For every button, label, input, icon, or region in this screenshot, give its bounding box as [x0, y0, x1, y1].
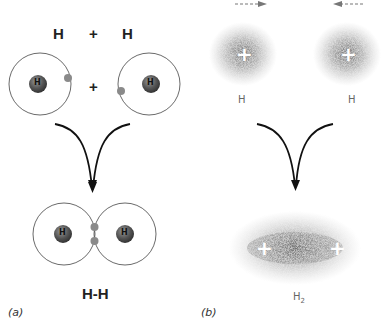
reactant-label-right: H	[122, 25, 133, 42]
approach-arrow-right	[235, 1, 267, 7]
nucleus-label: H	[59, 228, 66, 237]
molecule-a	[33, 203, 156, 265]
nucleus-label: H	[147, 78, 154, 87]
proton-plus-left-molecule: +	[256, 236, 273, 260]
atoms-plus: +	[89, 78, 98, 95]
electron-icon	[64, 74, 72, 82]
product-label-b: H2	[293, 291, 305, 305]
reaction-arrow-b	[257, 124, 333, 191]
product-subscript: 2	[301, 297, 305, 305]
product-label-a: H-H	[82, 285, 109, 302]
electron-icon	[91, 237, 99, 245]
panel-label-b: (b)	[201, 306, 217, 319]
diagram-graphics	[0, 0, 386, 325]
proton-plus-right: +	[340, 42, 357, 66]
reactant-plus: +	[89, 25, 98, 42]
proton-plus-right-molecule: +	[329, 236, 346, 260]
hydrogen-bond-diagram: H + H + H H H H H-H (a) + + H H + + H2 (…	[0, 0, 386, 325]
proton-plus-left: +	[236, 42, 253, 66]
reaction-arrow-a	[55, 124, 130, 193]
approach-arrow-left	[333, 1, 365, 7]
nucleus-label: H	[34, 78, 41, 87]
electron-icon	[91, 223, 99, 231]
electron-icon	[117, 87, 125, 95]
nucleus-label: H	[121, 228, 128, 237]
product-symbol: H	[293, 291, 301, 302]
atom-label-right: H	[348, 94, 356, 105]
atom-label-left: H	[238, 94, 246, 105]
reactant-label-left: H	[53, 25, 64, 42]
panel-label-a: (a)	[8, 306, 23, 319]
